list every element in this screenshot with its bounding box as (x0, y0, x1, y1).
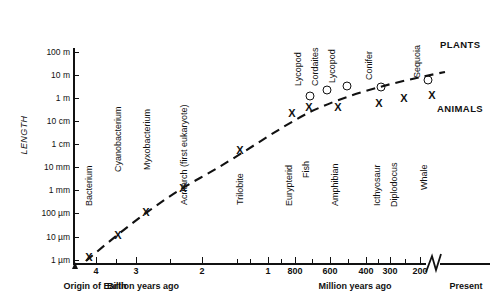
group-label-animals: ANIMALS (437, 103, 483, 114)
x-tick-label: 300 (382, 266, 397, 276)
x-tick-mark (405, 259, 406, 264)
point-label: Lycopod (327, 49, 337, 83)
x-tick-label: 600 (322, 266, 337, 276)
y-tick-mark (73, 52, 79, 53)
x-tick-label: 400 (358, 266, 373, 276)
point-label: Icthyosaur (372, 164, 382, 206)
x-tick-label: 800 (287, 266, 302, 276)
x-tick-mark (330, 257, 331, 264)
y-tick-label: 10 µm (46, 233, 70, 242)
x-tick-mark (170, 259, 171, 264)
point-label: Myxobacterium (142, 109, 152, 170)
x-tick-label: 200 (412, 266, 427, 276)
point-label: Diplodocus (389, 162, 399, 207)
y-tick-label: 10 mm (44, 163, 70, 172)
y-tick-label: 1 mm (49, 186, 70, 195)
marker-plant-o (377, 83, 386, 92)
chart-root: LENGTH 100 m10 m1 m10 cm1 cm10 mm1 mm100… (0, 0, 492, 299)
marker-animal-x: X (428, 90, 435, 101)
x-tick-mark (116, 259, 117, 264)
point-label: Eurypterid (284, 165, 294, 206)
y-tick-mark (73, 237, 79, 238)
marker-plant-o (343, 82, 352, 91)
x-tick-mark (312, 259, 313, 264)
point-label: Conifer (364, 51, 374, 80)
y-tick-label: 10 cm (47, 117, 70, 126)
group-label-plants: PLANTS (440, 39, 480, 50)
y-axis-tick-labels: 100 m10 m1 m10 cm1 cm10 mm1 mm100 µm10 µ… (0, 0, 70, 299)
marker-animal-x: X (334, 102, 341, 113)
y-tick-mark (73, 190, 79, 191)
x-tick-label: 4 (93, 266, 98, 276)
y-tick-mark (73, 121, 79, 122)
x-tick-mark (348, 259, 349, 264)
x-tick-mark (268, 257, 269, 264)
point-label: Sequoia (412, 45, 422, 78)
y-tick-label: 1 m (56, 94, 70, 103)
x-tick-mark (250, 259, 251, 264)
marker-animal-x: X (114, 230, 121, 241)
x-axis-title-millions: Million years ago (318, 281, 391, 291)
marker-animal-x: X (85, 252, 92, 263)
x-tick-mark (420, 257, 421, 264)
marker-animal-x: X (288, 108, 295, 119)
y-tick-mark (73, 98, 79, 99)
marker-animal-x: X (236, 145, 243, 156)
y-tick-mark (73, 260, 79, 261)
x-tick-mark (390, 257, 391, 264)
point-label: Bacterium (84, 165, 94, 206)
point-label: Cyanobacterium (113, 106, 123, 172)
y-tick-label: 100 m (46, 48, 70, 57)
y-tick-mark (73, 167, 79, 168)
x-tick-label: 3 (133, 266, 138, 276)
x-tick-mark (202, 257, 203, 264)
y-axis-line (73, 48, 75, 264)
marker-plant-o (323, 86, 332, 95)
origin-of-earth-label: Origin of Earth (64, 281, 127, 291)
point-label: Fish (301, 161, 311, 178)
x-tick-mark (378, 259, 379, 264)
x-axis-line-right (440, 263, 490, 265)
x-tick-mark (295, 257, 296, 264)
marker-animal-x: X (142, 207, 149, 218)
point-label: Trilobite (235, 173, 245, 205)
x-tick-mark (136, 257, 137, 264)
y-tick-mark (73, 213, 79, 214)
x-tick-mark (237, 259, 238, 264)
point-label: Cordaites (310, 47, 320, 86)
origin-arrow-icon (72, 262, 78, 269)
y-tick-label: 1 cm (52, 140, 70, 149)
x-tick-mark (96, 257, 97, 264)
y-tick-mark (73, 75, 79, 76)
marker-animal-x: X (400, 93, 407, 104)
x-tick-mark (281, 259, 282, 264)
marker-animal-x: X (305, 102, 312, 113)
point-label: Amphibian (330, 163, 340, 206)
point-label: Acritarch (first eukaryote) (179, 104, 189, 205)
x-tick-label: 2 (199, 266, 204, 276)
marker-plant-o (306, 92, 315, 101)
marker-plant-o (424, 76, 433, 85)
point-label: Lycopod (293, 52, 303, 86)
y-tick-label: 10 m (51, 71, 70, 80)
point-label: Whale (419, 164, 429, 190)
y-tick-label: 1 µm (51, 256, 70, 265)
x-tick-mark (366, 257, 367, 264)
y-tick-mark (73, 144, 79, 145)
present-label: Present (449, 281, 482, 291)
y-tick-label: 100 µm (41, 209, 70, 218)
x-tick-label: 1 (265, 266, 270, 276)
marker-animal-x: X (375, 98, 382, 109)
